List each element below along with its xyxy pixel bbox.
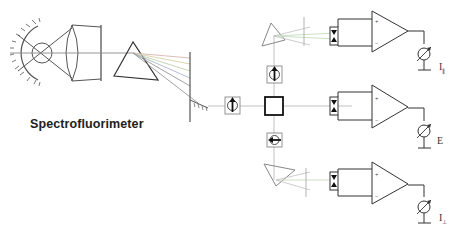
sample-cuvette-icon bbox=[265, 97, 283, 115]
svg-text:⊥: ⊥ bbox=[442, 219, 447, 225]
lamp-assembly bbox=[10, 18, 101, 86]
channel-top: + − I ∥ bbox=[330, 11, 445, 75]
channel-middle: + − E bbox=[330, 85, 443, 148]
emission-prism-bottom bbox=[264, 164, 337, 197]
photodiode-icon bbox=[330, 27, 338, 45]
svg-text:∥: ∥ bbox=[442, 68, 445, 75]
svg-text:E: E bbox=[437, 135, 443, 146]
prism-icon bbox=[264, 164, 295, 186]
channel-bottom: + − I ⊥ bbox=[330, 162, 447, 225]
analyzer-bottom bbox=[267, 133, 282, 147]
analyzer-top bbox=[267, 66, 282, 83]
photodiode-icon bbox=[330, 97, 338, 115]
polarizer bbox=[225, 97, 240, 114]
reflector-hatching bbox=[10, 18, 40, 86]
monochromator bbox=[114, 42, 208, 122]
photodiode-icon bbox=[330, 172, 338, 190]
emission-prism-top bbox=[262, 17, 337, 46]
diagram-title: Spectrofluorimeter bbox=[30, 117, 144, 131]
